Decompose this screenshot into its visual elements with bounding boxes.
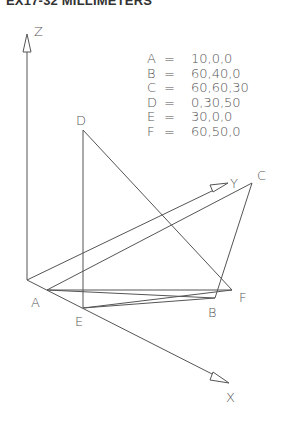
x-axis-label: X	[226, 390, 235, 405]
coord-value: 60,60,30	[191, 81, 249, 96]
z-axis-label: Z	[34, 24, 43, 39]
edge-a-c	[47, 183, 252, 290]
coord-equals: =	[164, 67, 191, 82]
coord-value: 0,30,50	[191, 96, 241, 111]
x-axis	[27, 280, 216, 376]
z-axis-arrow-icon	[23, 34, 31, 52]
coord-row-a: A = 10,0,0	[147, 52, 249, 67]
point-label-e: E	[75, 314, 83, 329]
y-axis-arrow-icon	[210, 183, 228, 192]
coord-row-e: E = 30,0,0	[147, 110, 249, 125]
edge-e-b	[83, 298, 215, 308]
y-axis	[27, 190, 214, 280]
coord-label: B	[147, 67, 164, 82]
coord-row-b: B = 60,40,0	[147, 67, 249, 82]
coord-equals: =	[164, 52, 191, 67]
edge-a-b	[47, 290, 215, 298]
coord-label: C	[147, 81, 164, 96]
coordinates-table: A = 10,0,0 B = 60,40,0 C = 60,60,30 D = …	[147, 52, 249, 140]
y-axis-label: Y	[230, 176, 238, 191]
point-label-d: D	[76, 113, 86, 128]
point-label-f: F	[239, 290, 246, 305]
edge-d-f	[83, 130, 232, 290]
coord-label: D	[147, 96, 164, 111]
point-label-c: C	[257, 168, 266, 183]
x-axis-arrow-icon	[210, 372, 229, 383]
coord-row-f: F = 60,50,0	[147, 125, 249, 140]
coord-value: 30,0,0	[191, 110, 232, 125]
coord-label: F	[147, 125, 164, 140]
coord-row-c: C = 60,60,30	[147, 81, 249, 96]
coord-value: 10,0,0	[191, 52, 232, 67]
coord-label: E	[147, 110, 164, 125]
point-label-b: B	[208, 305, 217, 320]
coord-value: 60,40,0	[191, 67, 241, 82]
coord-label: A	[147, 52, 164, 67]
point-label-a: A	[31, 295, 40, 310]
coord-equals: =	[164, 96, 191, 111]
coord-value: 60,50,0	[191, 125, 241, 140]
coord-equals: =	[164, 110, 191, 125]
edge-c-b	[215, 183, 252, 298]
coord-row-d: D = 0,30,50	[147, 96, 249, 111]
coord-equals: =	[164, 125, 191, 140]
coord-equals: =	[164, 81, 191, 96]
